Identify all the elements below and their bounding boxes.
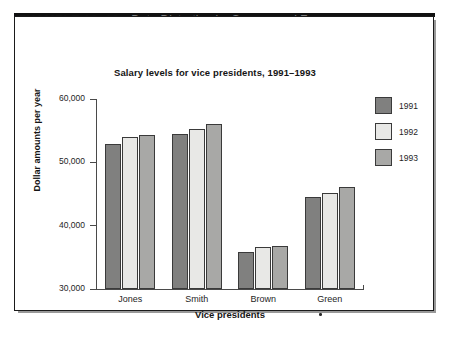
y-axis-title: Dollar amounts per year	[32, 70, 42, 210]
x-axis-label-smith: Smith	[162, 294, 232, 304]
bar-jones-1992	[122, 137, 138, 289]
bar-brown-1992	[255, 247, 271, 289]
green-footnote-dot-icon	[319, 313, 322, 316]
bar-smith-1991	[172, 134, 188, 289]
y-axis-tick	[90, 99, 96, 100]
y-axis-tick-label: 50,000	[39, 156, 85, 166]
bar-jones-1993	[139, 135, 155, 289]
bar-green-1993	[339, 187, 355, 289]
legend-label-1993: 1993	[399, 153, 418, 163]
y-axis-tick-label: 30,000	[39, 283, 85, 293]
y-axis-tick	[90, 289, 96, 290]
figure-box: Salary levels for vice presidents, 1991–…	[14, 16, 434, 311]
x-axis-right-endcap	[363, 285, 364, 290]
legend-label-1992: 1992	[399, 127, 418, 137]
plot-area	[97, 99, 363, 289]
y-axis-tick-label: 60,000	[39, 93, 85, 103]
bar-jones-1991	[105, 144, 121, 289]
bar-green-1992	[322, 193, 338, 289]
legend-swatch-1992	[375, 123, 392, 140]
legend-swatch-1991	[375, 97, 392, 114]
legend-item-1993: 1993	[375, 149, 445, 166]
x-axis-title: Vice presidents	[97, 309, 363, 320]
chart-title: Salary levels for vice presidents, 1991–…	[15, 67, 415, 78]
legend-swatch-1993	[375, 149, 392, 166]
y-axis-tick-label: 40,000	[39, 220, 85, 230]
bar-smith-1992	[189, 129, 205, 289]
bar-brown-1993	[272, 246, 288, 289]
legend-item-1991: 1991	[375, 97, 445, 114]
bar-smith-1993	[206, 124, 222, 289]
bar-brown-1991	[238, 252, 254, 289]
x-axis-line	[96, 289, 364, 290]
legend: 199119921993	[375, 97, 445, 175]
x-axis-label-brown: Brown	[228, 294, 298, 304]
legend-label-1991: 1991	[399, 101, 418, 111]
legend-item-1992: 1992	[375, 123, 445, 140]
bar-green-1991	[305, 197, 321, 289]
y-axis-tick	[90, 225, 96, 226]
x-axis-label-jones: Jones	[95, 294, 165, 304]
x-axis-label-green: Green	[295, 294, 365, 304]
y-axis-tick	[90, 162, 96, 163]
